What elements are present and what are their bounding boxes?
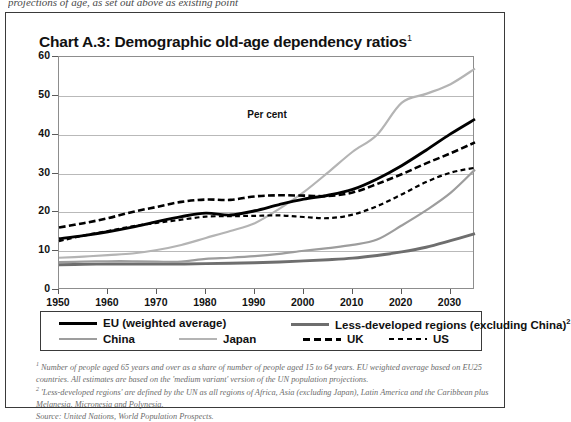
truncated-body-text: projections of age, as set out above as … [8, 0, 338, 8]
y-axis-tick-label: 30 [20, 166, 50, 178]
x-axis-tick-label: 1960 [87, 296, 127, 308]
y-axis-tick-label: 20 [20, 204, 50, 216]
x-axis-tick-mark [156, 289, 157, 294]
footnote-2-text: 'Less-developed regions' are defined by … [36, 388, 488, 409]
data-series-layer [59, 57, 475, 290]
x-axis-tick-label: 2010 [332, 296, 372, 308]
y-axis-tick-mark [52, 250, 58, 251]
x-axis-tick-label: 1970 [136, 296, 176, 308]
plot-area: Per cent [58, 56, 474, 289]
legend-item-label: Japan [223, 333, 256, 345]
y-axis-tick-mark [52, 173, 58, 174]
legend-item[interactable]: EU (weighted average) [59, 317, 226, 329]
x-axis-tick-mark [107, 289, 108, 294]
x-axis-tick-mark [254, 289, 255, 294]
series-line [59, 142, 475, 227]
y-axis-tick-mark [52, 95, 58, 96]
legend-swatch-icon [303, 333, 341, 345]
x-axis-tick-mark [450, 289, 451, 294]
legend-item[interactable]: US [389, 333, 449, 345]
series-line [59, 234, 475, 265]
legend-swatch-icon [389, 333, 427, 345]
legend-item[interactable]: UK [303, 333, 364, 345]
chart-legend: EU (weighted average)Less-developed regi… [40, 311, 482, 351]
legend-item[interactable]: Japan [179, 333, 256, 345]
x-axis-tick-mark [303, 289, 304, 294]
legend-item-label: China [103, 333, 135, 345]
chart-title: Chart A.3: Demographic old-age dependenc… [39, 33, 479, 51]
footnote-1: 1 Number of people aged 65 years and ove… [36, 360, 491, 385]
legend-item-label: UK [347, 333, 364, 345]
chart-title-text: Chart A.3: Demographic old-age dependenc… [39, 33, 407, 50]
y-axis-tick-mark [52, 56, 58, 57]
footnotes: 1 Number of people aged 65 years and ove… [36, 360, 491, 422]
legend-item-label: Less-developed regions (excluding China)… [335, 317, 571, 331]
x-axis-tick-label: 2030 [430, 296, 470, 308]
legend-swatch-icon [59, 333, 97, 345]
source-note-text: Source: United Nations, World Population… [36, 412, 214, 421]
legend-footnote-marker: 2 [566, 317, 570, 326]
legend-item-label: US [433, 333, 449, 345]
legend-item[interactable]: Less-developed regions (excluding China)… [291, 317, 571, 331]
figure-container: Chart A.3: Demographic old-age dependenc… [5, 12, 505, 408]
legend-swatch-icon [59, 317, 97, 329]
x-axis-tick-label: 1980 [185, 296, 225, 308]
x-axis-tick-mark [205, 289, 206, 294]
y-axis-tick-label: 60 [20, 49, 50, 61]
x-axis-tick-mark [352, 289, 353, 294]
chart-title-footnote-marker: 1 [407, 33, 412, 43]
x-axis-tick-label: 1950 [38, 296, 78, 308]
y-axis-tick-label: 10 [20, 243, 50, 255]
y-axis-tick-label: 0 [20, 282, 50, 294]
x-axis-tick-label: 2000 [283, 296, 323, 308]
x-axis-tick-label: 2020 [381, 296, 421, 308]
footnote-1-text: Number of people aged 65 years and over … [36, 363, 482, 384]
footnote-2: 2 'Less-developed regions' are defined b… [36, 385, 491, 410]
x-axis-tick-mark [58, 289, 59, 294]
y-axis-tick-mark [52, 211, 58, 212]
legend-swatch-icon [179, 333, 217, 345]
y-axis-tick-label: 50 [20, 88, 50, 100]
legend-item-label: EU (weighted average) [103, 317, 226, 329]
y-axis-tick-label: 40 [20, 127, 50, 139]
y-axis-tick-mark [52, 134, 58, 135]
legend-swatch-icon [291, 318, 329, 330]
x-axis-tick-label: 1990 [234, 296, 274, 308]
series-line [59, 119, 475, 239]
source-note: Source: United Nations, World Population… [36, 411, 491, 422]
legend-item[interactable]: China [59, 333, 135, 345]
x-axis-tick-mark [401, 289, 402, 294]
